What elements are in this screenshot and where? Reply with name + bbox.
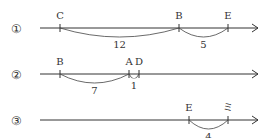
point-label: C [56,10,64,21]
point-label: E [185,102,192,113]
point-label: D [135,56,143,67]
number-line-2: ②BAD71 [11,56,258,96]
number-line-1: ①CBE125 [11,10,258,50]
distance-value: 5 [200,39,206,50]
number-line-3: ③Eミ4 [11,102,258,138]
point-label: E [224,10,231,21]
line-label: ③ [11,114,22,128]
number-line-diagram: ①CBE125②BAD71③Eミ4 [0,0,278,138]
line-label: ① [11,22,22,36]
distance-value: 12 [113,39,126,50]
line-label: ② [11,68,22,82]
distance-arc [129,74,139,79]
point-label: A [124,56,133,67]
point-label: B [175,10,182,21]
distance-arc [189,120,228,129]
distance-value: 4 [205,131,211,138]
distance-value: 7 [91,85,97,96]
distance-value: 1 [131,80,137,91]
point-label: ミ [223,102,233,113]
point-label: B [56,56,63,67]
distance-arc [60,74,129,83]
distance-arc [60,28,179,37]
distance-arc [179,28,228,37]
